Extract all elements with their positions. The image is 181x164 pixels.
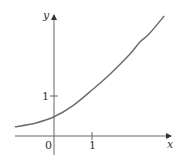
x-tick-label-1: 1: [89, 139, 96, 152]
origin-label: 0: [45, 139, 52, 152]
y-axis-label: y: [42, 9, 50, 22]
data-curve: [15, 16, 164, 127]
x-axis-label: x: [167, 138, 174, 151]
y-tick-label-1: 1: [42, 90, 49, 103]
chart: y x 0 1 1: [0, 0, 181, 164]
